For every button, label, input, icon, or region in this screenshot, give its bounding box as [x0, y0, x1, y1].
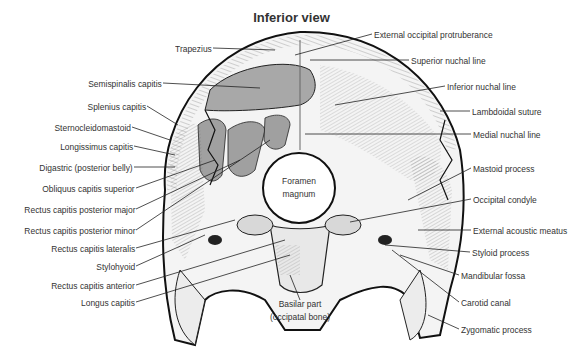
label-stylohyoid: Stylohyoid [96, 261, 135, 272]
label-basilar-part: Basilar part [255, 298, 345, 309]
label-rectus-capitis-anterior: Rectus capitis anterior [52, 280, 135, 291]
label-superior-nuchal-line: Superior nuchal line [411, 55, 486, 66]
label-rectus-capitis-lateralis: Rectus capitis lateralis [51, 243, 135, 254]
label-lambdoidal-suture: Lambdoidal suture [472, 106, 541, 117]
label-sternocleidomastoid: Sternocleidomastoid [55, 122, 131, 133]
label-medial-nuchal-line: Medial nuchal line [473, 129, 541, 140]
anatomy-diagram: Inferior view [0, 0, 583, 362]
label-semispinalis-capitis: Semispinalis capitis [88, 78, 162, 89]
label-occipital-condyle: Occipital condyle [473, 194, 537, 205]
label-digastric: Digastric (posterior belly) [40, 162, 133, 173]
label-mandibular-fossa: Mandibular fossa [461, 270, 525, 281]
label-carotid-canal: Carotid canal [461, 297, 511, 308]
label-longissimus-capitis: Longissimus capitis [60, 141, 133, 152]
label-obliquus-capitis-superior: Obliquus capitis superior [43, 183, 135, 194]
label-external-acoustic-meatus: External acoustic meatus [473, 225, 567, 236]
label-foramen: Foramen [263, 175, 335, 186]
label-rectus-capitis-posterior-minor: Rectus capitis posterior minor [24, 225, 135, 236]
label-styloid-process: Styloid process [472, 247, 529, 258]
label-longus-capitis: Longus capitis [81, 297, 135, 308]
label-inferior-nuchal-line: Inferior nuchal line [447, 81, 516, 92]
label-zygomatic-process: Zygomatic process [461, 324, 532, 335]
label-mastoid-process: Mastoid process [473, 163, 534, 174]
label-occipatal-bone: (occipatal bone) [255, 311, 345, 322]
label-external-occipital-protuberance: External occipital protruberance [374, 29, 493, 40]
label-magnum: magnum [263, 188, 335, 199]
label-trapezius: Trapezius [175, 43, 212, 54]
label-rectus-capitis-posterior-major: Rectus capitis posterior major [24, 204, 135, 215]
label-splenius-capitis: Splenius capitis [87, 101, 146, 112]
